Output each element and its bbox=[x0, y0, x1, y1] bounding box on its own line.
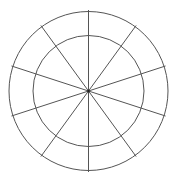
spoke-line bbox=[89, 66, 166, 91]
spoke-line bbox=[41, 91, 89, 157]
spoke-line bbox=[89, 25, 137, 91]
spoke-line bbox=[89, 91, 137, 157]
spoke-line bbox=[11, 66, 88, 91]
center-hub bbox=[87, 90, 90, 93]
spoke-line bbox=[41, 25, 89, 91]
spoke-line bbox=[11, 91, 88, 116]
spoke-line bbox=[89, 91, 166, 116]
polar-grid-diagram bbox=[0, 0, 176, 181]
